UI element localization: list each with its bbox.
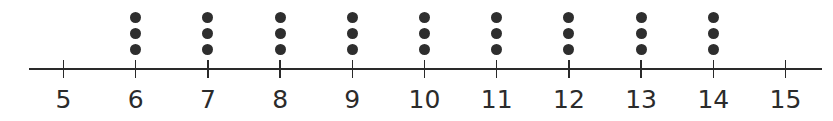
- data-dot: [563, 12, 574, 23]
- data-dot: [347, 28, 358, 39]
- dot-plot: 56789101112131415: [0, 0, 833, 121]
- axis-tick-label: 8: [260, 86, 300, 114]
- data-dot: [708, 28, 719, 39]
- axis-tick-label: 9: [332, 86, 372, 114]
- data-dot: [563, 28, 574, 39]
- data-dot: [563, 44, 574, 55]
- data-dot: [636, 28, 647, 39]
- axis-tick: [279, 60, 281, 78]
- number-line-axis: [29, 68, 822, 70]
- axis-tick: [207, 60, 209, 78]
- axis-tick: [352, 60, 354, 78]
- axis-tick-label: 15: [766, 86, 806, 114]
- data-dot: [419, 12, 430, 23]
- data-dot: [491, 12, 502, 23]
- data-dot: [202, 28, 213, 39]
- data-dot: [202, 44, 213, 55]
- axis-tick: [63, 60, 65, 78]
- axis-tick-label: 7: [188, 86, 228, 114]
- axis-tick: [496, 60, 498, 78]
- data-dot: [130, 28, 141, 39]
- data-dot: [708, 12, 719, 23]
- axis-tick-label: 6: [116, 86, 156, 114]
- data-dot: [202, 12, 213, 23]
- data-dot: [275, 12, 286, 23]
- axis-tick: [424, 60, 426, 78]
- axis-tick: [785, 60, 787, 78]
- data-dot: [708, 44, 719, 55]
- data-dot: [130, 12, 141, 23]
- axis-tick: [640, 60, 642, 78]
- axis-tick-label: 13: [621, 86, 661, 114]
- axis-tick: [713, 60, 715, 78]
- axis-tick-label: 11: [477, 86, 517, 114]
- data-dot: [491, 28, 502, 39]
- axis-tick: [135, 60, 137, 78]
- data-dot: [275, 44, 286, 55]
- data-dot: [419, 44, 430, 55]
- data-dot: [636, 44, 647, 55]
- data-dot: [130, 44, 141, 55]
- axis-tick-label: 10: [405, 86, 445, 114]
- data-dot: [419, 28, 430, 39]
- data-dot: [275, 28, 286, 39]
- axis-tick-label: 12: [549, 86, 589, 114]
- data-dot: [636, 12, 647, 23]
- axis-tick: [568, 60, 570, 78]
- axis-tick-label: 5: [44, 86, 84, 114]
- data-dot: [491, 44, 502, 55]
- data-dot: [347, 44, 358, 55]
- axis-tick-label: 14: [693, 86, 733, 114]
- data-dot: [347, 12, 358, 23]
